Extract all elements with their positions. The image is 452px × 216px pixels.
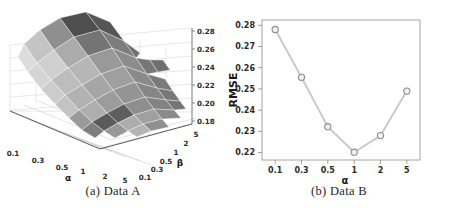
svg-text:0.3: 0.3 (151, 165, 164, 174)
surface-z-ticks: 0.28 0.26 0.24 0.22 0.20 0.18 (197, 27, 215, 126)
surface-z-axis (192, 28, 195, 124)
surface-beta-axis-title: β (177, 158, 184, 168)
line-plot-area: 0.28 0.27 0.26 0.25 0.24 0.23 0.22 (226, 0, 452, 184)
svg-text:0.18: 0.18 (197, 117, 215, 126)
surface-plot-svg: 0.1 0.3 0.5 1 2 5 α 0.1 0.3 0.5 1 2 5 (0, 0, 226, 184)
svg-text:1: 1 (351, 166, 357, 175)
svg-text:0.3: 0.3 (32, 156, 45, 165)
figure-row: 0.1 0.3 0.5 1 2 5 α 0.1 0.3 0.5 1 2 5 (0, 0, 452, 216)
svg-text:0.26: 0.26 (235, 64, 255, 73)
svg-text:2: 2 (102, 172, 107, 181)
svg-text:0.28: 0.28 (235, 21, 255, 30)
svg-text:0.22: 0.22 (197, 81, 215, 90)
svg-text:0.5: 0.5 (56, 163, 69, 172)
svg-text:0.23: 0.23 (235, 127, 255, 136)
svg-text:0.26: 0.26 (197, 45, 215, 54)
y-axis-title: RMSE (227, 73, 240, 108)
surface-alpha-axis-title: α (65, 173, 71, 183)
svg-text:2: 2 (378, 166, 384, 175)
panel-a-caption: (a) Data A (0, 184, 226, 199)
svg-text:1: 1 (80, 167, 85, 176)
panel-b-caption: (b) Data B (226, 184, 452, 199)
data-point (325, 124, 331, 130)
data-point (272, 26, 278, 32)
x-axis-ticks (275, 160, 407, 164)
svg-text:0.1: 0.1 (139, 173, 152, 182)
svg-text:0.1: 0.1 (7, 149, 20, 158)
svg-text:5: 5 (404, 166, 410, 175)
line-plot-svg: 0.28 0.27 0.26 0.25 0.24 0.23 0.22 (226, 0, 452, 184)
svg-text:0.24: 0.24 (197, 63, 215, 72)
data-point (377, 133, 383, 139)
svg-text:0.3: 0.3 (294, 166, 308, 175)
data-point (351, 149, 357, 155)
surface-beta-ticks: 0.1 0.3 0.5 1 2 5 (139, 130, 199, 182)
svg-text:0.5: 0.5 (321, 166, 336, 175)
x-axis-title: α (342, 175, 349, 184)
svg-text:2: 2 (183, 139, 188, 148)
svg-text:0.28: 0.28 (197, 27, 215, 36)
y-axis-ticks (258, 25, 262, 152)
surface-plot-area: 0.1 0.3 0.5 1 2 5 α 0.1 0.3 0.5 1 2 5 (0, 0, 226, 184)
svg-text:0.22: 0.22 (235, 148, 255, 157)
svg-text:0.27: 0.27 (235, 42, 255, 51)
svg-text:0.20: 0.20 (197, 99, 215, 108)
svg-text:0.5: 0.5 (160, 157, 173, 166)
figure-panel-data-b: 0.28 0.27 0.26 0.25 0.24 0.23 0.22 (226, 0, 452, 216)
svg-text:5: 5 (122, 176, 127, 184)
data-point (298, 74, 304, 80)
svg-text:0.1: 0.1 (268, 166, 283, 175)
svg-text:5: 5 (193, 130, 198, 139)
svg-text:1: 1 (173, 148, 178, 157)
figure-panel-data-a: 0.1 0.3 0.5 1 2 5 α 0.1 0.3 0.5 1 2 5 (0, 0, 226, 216)
data-point (404, 88, 410, 94)
x-axis-tick-labels: 0.1 0.3 0.5 1 2 5 (268, 166, 410, 175)
